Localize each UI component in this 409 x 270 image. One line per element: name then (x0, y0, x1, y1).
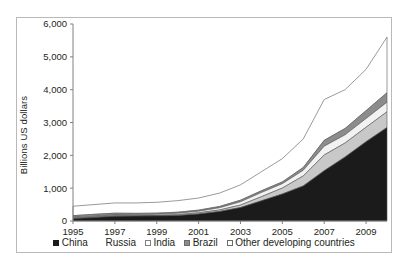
legend-label: India (153, 237, 175, 248)
legend-swatch-icon (227, 240, 233, 246)
legend-item[interactable]: India (145, 237, 175, 248)
legend-item[interactable]: Other developing countries (227, 237, 355, 248)
legend-item[interactable]: Brazil (184, 237, 218, 248)
legend-label: Other developing countries (235, 237, 355, 248)
legend-label: Russia (105, 237, 136, 248)
x-tick-label: 2003 (230, 226, 251, 237)
y-tick-label: 2,000 (43, 150, 67, 161)
legend-item[interactable]: Russia (97, 237, 136, 248)
legend-item[interactable]: China (53, 237, 88, 248)
x-tick-label: 2001 (188, 226, 209, 237)
y-tick-label: 1,000 (43, 183, 67, 194)
legend-swatch-icon (184, 240, 190, 246)
x-tick-label: 1997 (104, 226, 125, 237)
legend-label: China (62, 237, 88, 248)
stacked-area-chart: 01,0002,0003,0004,0005,0006,000199519971… (17, 18, 393, 254)
x-tick-label: 1999 (146, 226, 167, 237)
legend-swatch-icon (53, 240, 59, 246)
y-tick-label: 3,000 (43, 117, 67, 128)
y-tick-label: 5,000 (43, 51, 67, 62)
x-tick-label: 2009 (355, 226, 376, 237)
y-tick-label: 0 (62, 215, 67, 226)
legend-swatch-icon (145, 240, 151, 246)
x-tick-label: 2007 (314, 226, 335, 237)
chart-figure: Billions US dollars 01,0002,0003,0004,00… (16, 17, 392, 253)
y-tick-label: 6,000 (43, 18, 67, 29)
legend-swatch-icon (97, 240, 103, 246)
chart-legend: ChinaRussiaIndiaBrazilOther developing c… (17, 237, 391, 248)
y-tick-label: 4,000 (43, 84, 67, 95)
x-tick-label: 2005 (272, 226, 293, 237)
x-tick-label: 1995 (62, 226, 83, 237)
chart-plot-area: 01,0002,0003,0004,0005,0006,000199519971… (17, 18, 391, 252)
legend-label: Brazil (193, 237, 218, 248)
